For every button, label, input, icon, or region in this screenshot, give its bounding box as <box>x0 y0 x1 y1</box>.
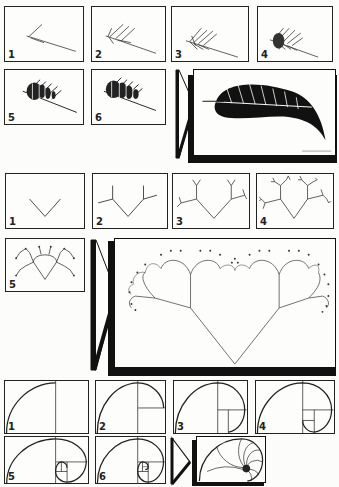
step-label: 1 <box>8 422 15 432</box>
fern-step-1: 1 <box>4 6 84 62</box>
fern-step-2: 2 <box>91 6 166 62</box>
fern-step-1-drawing <box>5 7 83 61</box>
spiral-step-3-drawing <box>174 381 247 433</box>
spiral-step-2: 2 <box>95 380 166 434</box>
spiral-step-1-drawing <box>5 381 88 433</box>
spiral-step-4: 4 <box>255 380 335 434</box>
fern-result-drawing <box>194 70 335 155</box>
fern-step-4-drawing <box>258 7 332 61</box>
fern-step-5-drawing <box>5 70 83 124</box>
spiral-step-1: 1 <box>4 380 89 434</box>
tree-step-2-drawing <box>93 174 167 228</box>
step-label: 1 <box>8 50 15 60</box>
step-label: 6 <box>95 113 102 123</box>
step-label: 3 <box>175 50 182 60</box>
spiral-step-3: 3 <box>173 380 248 434</box>
tree-step-4-drawing <box>257 174 333 228</box>
step-label: 4 <box>261 50 268 60</box>
spiral-step-5: 5 <box>4 436 89 484</box>
step-label: 5 <box>8 113 15 123</box>
tree-result-drawing <box>115 239 335 367</box>
step-label: 1 <box>9 217 16 227</box>
step-label: 3 <box>177 422 184 432</box>
spiral-arrow-icon <box>170 436 192 486</box>
spiral-step-2-drawing <box>96 381 165 433</box>
fern-result <box>193 69 336 156</box>
step-label: 2 <box>96 217 103 227</box>
tree-step-2: 2 <box>92 173 168 229</box>
step-label: 4 <box>259 422 266 432</box>
spiral-step-6: 6 <box>95 436 166 484</box>
step-label: 4 <box>260 217 267 227</box>
tree-step-3: 3 <box>172 173 250 229</box>
step-label: 2 <box>95 50 102 60</box>
fern-step-5: 5 <box>4 69 84 125</box>
step-label: 5 <box>8 472 15 482</box>
fern-step-2-drawing <box>92 7 165 61</box>
tree-step-4: 4 <box>256 173 334 229</box>
fern-step-6: 6 <box>91 69 166 125</box>
tree-step-3-drawing <box>173 174 249 228</box>
tree-step-5-drawing <box>6 239 84 291</box>
step-label: 3 <box>176 217 183 227</box>
spiral-step-6-drawing <box>96 437 165 483</box>
tree-result <box>114 238 336 368</box>
fern-step-4: 4 <box>257 6 333 62</box>
spiral-step-4-drawing <box>256 381 334 433</box>
step-label: 5 <box>9 280 16 290</box>
fern-step-3: 3 <box>171 6 249 62</box>
fern-step-6-drawing <box>92 70 165 124</box>
step-label: 2 <box>99 422 106 432</box>
spiral-result <box>196 436 266 483</box>
tree-step-1-drawing <box>6 174 84 228</box>
spiral-step-5-drawing <box>5 437 88 483</box>
spiral-result-drawing <box>197 437 265 482</box>
tree-step-1: 1 <box>5 173 85 229</box>
step-label: 6 <box>99 472 106 482</box>
tree-step-5: 5 <box>5 238 85 292</box>
fern-step-3-drawing <box>172 7 248 61</box>
